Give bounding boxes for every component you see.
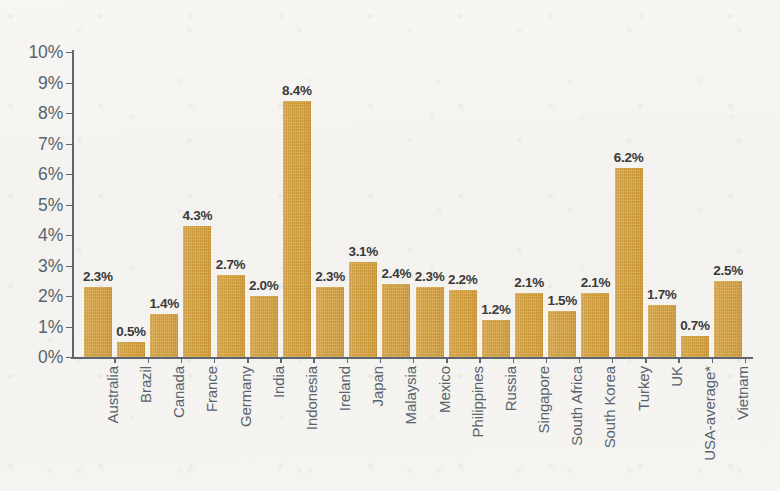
x-axis-tick-mark <box>745 357 746 363</box>
y-axis-tick-mark <box>66 144 72 145</box>
bar-group[interactable]: 0.5% <box>117 52 145 357</box>
x-axis-tick-mark <box>678 357 679 363</box>
x-axis-category-label: Brazil <box>137 366 154 403</box>
bar-value-label: 2.1% <box>581 275 611 290</box>
x-axis-tick-mark <box>612 357 613 363</box>
bar[interactable] <box>548 311 576 357</box>
y-axis-tick-label: 0% <box>38 347 63 368</box>
bar-value-label: 2.3% <box>83 269 113 284</box>
x-axis-tick-mark <box>114 357 115 363</box>
bar[interactable] <box>150 314 178 357</box>
x-axis-category-label: Malaysia <box>402 366 419 424</box>
bar[interactable] <box>416 287 444 357</box>
x-axis-tick-mark <box>645 357 646 363</box>
y-axis-tick-mark <box>66 113 72 114</box>
x-axis-category-label: South Korea <box>601 366 618 448</box>
bar-value-label: 0.5% <box>116 324 146 339</box>
y-axis-tick-mark <box>66 205 72 206</box>
bar-group[interactable]: 2.5% <box>714 52 742 357</box>
x-axis-category-label: India <box>270 366 287 398</box>
x-axis-category-label: Ireland <box>336 366 353 411</box>
bar[interactable] <box>515 293 543 357</box>
x-axis-category-label: South Africa <box>568 366 585 446</box>
x-axis-tick-mark <box>479 357 480 363</box>
bar-value-label: 2.3% <box>415 269 445 284</box>
bar-value-label: 1.7% <box>647 287 677 302</box>
x-axis-category-label: Canada <box>170 366 187 418</box>
x-axis-category-label: Singapore <box>535 366 552 434</box>
x-axis-category-label: Germany <box>237 366 254 427</box>
bar-group[interactable]: 1.2% <box>482 52 510 357</box>
bar[interactable] <box>84 287 112 357</box>
bar[interactable] <box>615 168 643 357</box>
x-axis-tick-mark <box>280 357 281 363</box>
x-axis-category-label: Vietnam <box>734 366 751 420</box>
bar[interactable] <box>482 320 510 357</box>
y-axis-tick-label: 8% <box>38 103 63 124</box>
bar-group[interactable]: 2.4% <box>382 52 410 357</box>
bar-group[interactable]: 6.2% <box>615 52 643 357</box>
bar[interactable] <box>183 226 211 357</box>
x-axis-category-label: Mexico <box>436 366 453 413</box>
bar-value-label: 2.7% <box>216 257 246 272</box>
bar-value-label: 1.5% <box>547 293 577 308</box>
y-axis-tick-label: 7% <box>38 133 63 154</box>
bar-group[interactable]: 1.7% <box>648 52 676 357</box>
bar-group[interactable]: 4.3% <box>183 52 211 357</box>
bar-value-label: 2.3% <box>315 269 345 284</box>
bar-group[interactable]: 2.2% <box>449 52 477 357</box>
bar-group[interactable]: 2.3% <box>416 52 444 357</box>
bar-value-label: 2.4% <box>382 266 412 281</box>
x-axis-tick-mark <box>181 357 182 363</box>
bar-group[interactable]: 2.3% <box>316 52 344 357</box>
y-axis-tick-label: 5% <box>38 194 63 215</box>
bar-group[interactable]: 0.7% <box>681 52 709 357</box>
y-axis-tick-mark <box>66 52 72 53</box>
bar[interactable] <box>581 293 609 357</box>
bar[interactable] <box>316 287 344 357</box>
bar-value-label: 8.4% <box>282 83 312 98</box>
x-axis-category-label: Turkey <box>635 366 652 411</box>
bar[interactable] <box>217 275 245 357</box>
x-axis-category-label: Philippines <box>469 366 486 437</box>
bar-group[interactable]: 2.7% <box>217 52 245 357</box>
bar-group[interactable]: 2.0% <box>250 52 278 357</box>
y-axis-tick-mark <box>66 83 72 84</box>
x-axis-tick-mark <box>214 357 215 363</box>
bar-group[interactable]: 2.1% <box>515 52 543 357</box>
x-axis-category-label: Russia <box>502 366 519 411</box>
y-axis-tick-mark <box>66 174 72 175</box>
bar[interactable] <box>117 342 145 357</box>
y-axis-tick-mark <box>66 266 72 267</box>
bar-value-label: 1.4% <box>149 296 179 311</box>
bar-chart: 0%1%2%3%4%5%6%7%8%9%10%2.3%0.5%1.4%4.3%2… <box>0 0 780 491</box>
bar[interactable] <box>648 305 676 357</box>
x-axis-tick-mark <box>380 357 381 363</box>
bar[interactable] <box>349 262 377 357</box>
y-axis-tick-mark <box>66 357 72 358</box>
bar[interactable] <box>250 296 278 357</box>
bar-group[interactable]: 3.1% <box>349 52 377 357</box>
x-axis-category-label: Indonesia <box>303 366 320 430</box>
x-axis-tick-mark <box>712 357 713 363</box>
bar[interactable] <box>449 290 477 357</box>
bar-value-label: 2.0% <box>249 278 279 293</box>
bar-group[interactable]: 8.4% <box>283 52 311 357</box>
bar[interactable] <box>681 336 709 357</box>
x-axis-tick-mark <box>247 357 248 363</box>
y-axis-tick-label: 6% <box>38 164 63 185</box>
y-axis-tick-label: 10% <box>29 42 63 63</box>
bar-group[interactable]: 1.4% <box>150 52 178 357</box>
bar[interactable] <box>382 284 410 357</box>
bar-group[interactable]: 1.5% <box>548 52 576 357</box>
x-axis-tick-mark <box>579 357 580 363</box>
x-axis-tick-mark <box>513 357 514 363</box>
bar[interactable] <box>283 101 311 357</box>
y-axis-tick-label: 4% <box>38 225 63 246</box>
bar-group[interactable]: 2.1% <box>581 52 609 357</box>
bar[interactable] <box>714 281 742 357</box>
bar-value-label: 1.2% <box>481 302 511 317</box>
bar-value-label: 2.5% <box>713 263 743 278</box>
bar-value-label: 0.7% <box>680 318 710 333</box>
bar-group[interactable]: 2.3% <box>84 52 112 357</box>
